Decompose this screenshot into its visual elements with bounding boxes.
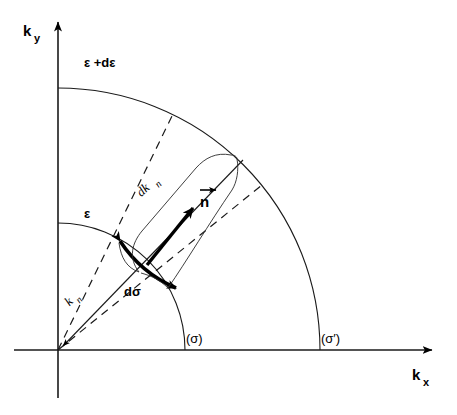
kspace-diagram: k y k x ε +dε ε (σ) (σ′) k n dk n dσ n bbox=[0, 0, 457, 415]
x-axis-symbol: k bbox=[412, 366, 421, 383]
dashed-ray-group bbox=[58, 114, 262, 350]
y-axis-label-group: k y bbox=[23, 22, 41, 44]
dkn-brace-group bbox=[119, 154, 238, 288]
y-axis-subscript: y bbox=[34, 32, 41, 44]
dashed-ray-upper bbox=[58, 114, 173, 350]
figure-container: k y k x ε +dε ε (σ) (σ′) k n dk n dσ n bbox=[0, 0, 457, 415]
kn-label-group: k n bbox=[61, 288, 84, 311]
x-axis-subscript: x bbox=[423, 376, 430, 388]
sigma-prime-label: (σ′) bbox=[321, 331, 340, 346]
dkn-subscript: n bbox=[152, 178, 163, 189]
sigma-label: (σ) bbox=[186, 331, 203, 346]
x-axis-label-group: k x bbox=[412, 366, 430, 388]
dkn-label-group: dk n bbox=[133, 172, 164, 202]
outer-arc-label: ε +dε bbox=[84, 55, 115, 70]
dkn-symbol: dk bbox=[133, 180, 152, 199]
radial-ray-group bbox=[63, 160, 243, 346]
y-axis-symbol: k bbox=[23, 22, 32, 39]
kn-radial-ray bbox=[63, 160, 243, 346]
normal-vector-label: n bbox=[200, 193, 209, 210]
dsigma-label: dσ bbox=[124, 284, 141, 299]
dkn-outline-left bbox=[119, 154, 231, 272]
axis-group bbox=[14, 22, 432, 398]
inner-arc-label: ε bbox=[84, 206, 90, 221]
